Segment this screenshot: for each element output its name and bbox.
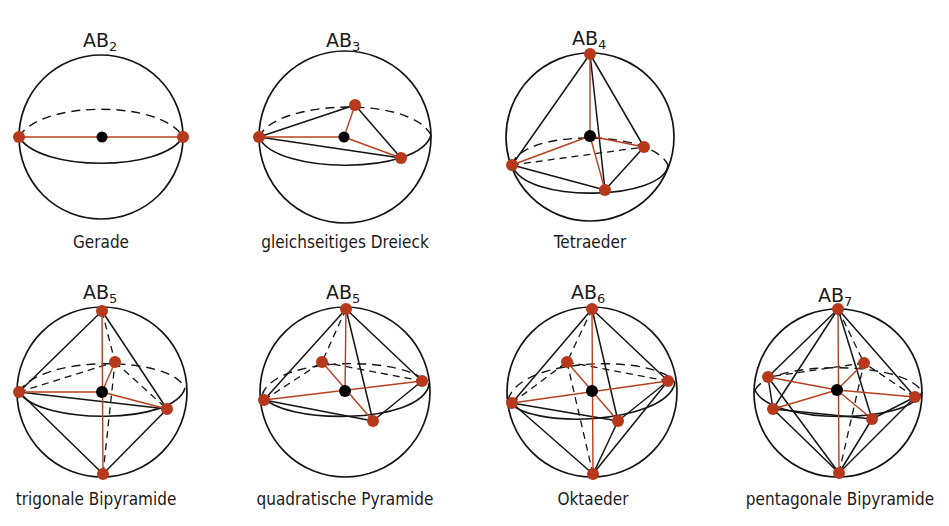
- geometry-caption: quadratische Pyramide: [257, 489, 434, 509]
- bond-line: [345, 309, 346, 391]
- bipyramid-edge: [19, 311, 102, 392]
- bipyramid-edge-hidden: [838, 309, 864, 363]
- panel-ab7-pentagonal-bipyramidal: AB7 pentagonale: [746, 284, 934, 509]
- bipyramid-edge: [773, 309, 838, 409]
- central-atom-a: [586, 385, 598, 397]
- bond-line: [768, 377, 837, 390]
- tetrahedron-edge-hidden: [512, 147, 644, 165]
- bipyramid-edge-hidden: [103, 362, 115, 474]
- ligand-atom-b: [96, 305, 108, 317]
- bipyramid-edge: [773, 409, 839, 473]
- pyramid-apex-edge: [346, 309, 422, 381]
- central-atom-a: [584, 130, 596, 142]
- ligand-atom-b: [584, 48, 596, 60]
- bipyramid-edge: [838, 309, 915, 397]
- ligand-atom-b: [506, 159, 518, 171]
- ligand-atom-b: [909, 391, 921, 403]
- ligand-atom-b: [258, 394, 270, 406]
- bipyramid-edge: [19, 392, 103, 474]
- triangle-edge: [259, 105, 355, 137]
- ligand-atom-b: [13, 386, 25, 398]
- tetrahedron-edge: [590, 54, 605, 190]
- ligand-atom-b: [13, 131, 25, 143]
- molecular-geometry-figure: AB2 Gerade AB3 gleichseitiges Dreieck AB…: [0, 0, 949, 526]
- tetrahedron-edge: [605, 147, 644, 190]
- ligand-atom-b: [316, 356, 328, 368]
- geometry-caption: Gerade: [73, 232, 129, 252]
- central-atom-a: [96, 386, 108, 398]
- octahedron-edge-hidden: [567, 362, 668, 381]
- ligand-atom-b: [833, 467, 845, 479]
- ligand-atom-b: [253, 131, 265, 143]
- ligand-atom-b: [161, 403, 173, 415]
- pyramid-apex-edge-hidden: [322, 309, 346, 362]
- ligand-atom-b: [762, 371, 774, 383]
- geometry-caption: Oktaeder: [557, 489, 629, 509]
- ligand-atom-b: [587, 468, 599, 480]
- geometry-caption: pentagonale Bipyramide: [746, 489, 934, 509]
- panel-ab4-tetrahedral: AB4 Tetraeder: [506, 27, 674, 252]
- panel-ab2-linear: AB2 Gerade: [13, 29, 189, 252]
- tetrahedron-edge: [512, 165, 605, 190]
- octahedron-edge: [512, 403, 593, 474]
- geometry-caption: Tetraeder: [553, 232, 627, 252]
- bond-line: [837, 390, 915, 397]
- bipyramid-edge-hidden: [102, 311, 115, 362]
- bipyramid-edge: [768, 377, 839, 473]
- pyramid-apex-edge: [346, 309, 373, 421]
- octahedron-edge: [512, 309, 592, 403]
- bond-line: [590, 136, 644, 147]
- octahedron-edge: [593, 381, 668, 474]
- bipyramid-edge: [103, 409, 167, 474]
- panel-ab3-trigonal-planar: AB3 gleichseitiges Dreieck: [253, 29, 431, 252]
- ligand-atom-b: [866, 413, 878, 425]
- ligand-atom-b: [561, 356, 573, 368]
- central-atom-a: [97, 132, 108, 143]
- central-atom-a: [831, 384, 843, 396]
- ligand-atom-b: [109, 356, 121, 368]
- ligand-atom-b: [177, 131, 189, 143]
- formula-label: AB5: [326, 281, 360, 306]
- equator-front: [512, 165, 668, 193]
- pentagon-edge: [872, 397, 915, 419]
- octahedron-edge-hidden: [567, 309, 592, 362]
- ligand-atom-b: [506, 397, 518, 409]
- ligand-atom-b: [767, 403, 779, 415]
- central-atom-a: [339, 132, 350, 143]
- ligand-atom-b: [349, 99, 361, 111]
- tetrahedron-edge: [512, 54, 590, 165]
- bond-line: [773, 390, 837, 409]
- ligand-atom-b: [97, 468, 109, 480]
- pentagon-edge: [773, 409, 872, 419]
- octahedron-edge-hidden: [567, 362, 593, 474]
- ligand-atom-b: [367, 415, 379, 427]
- panel-ab6-octahedral: AB6 Oktaeder: [506, 281, 677, 509]
- octahedron-edge: [592, 309, 668, 381]
- geometry-caption: trigonale Bipyramide: [16, 489, 177, 509]
- formula-label: AB5: [83, 281, 117, 306]
- ligand-atom-b: [586, 303, 598, 315]
- geometry-caption: gleichseitiges Dreieck: [261, 232, 429, 252]
- bipyramid-edge: [768, 309, 838, 377]
- ligand-atom-b: [858, 357, 870, 369]
- pentagon-edge-hidden: [768, 363, 864, 377]
- ligand-atom-b: [599, 184, 611, 196]
- panel-ab5-square-pyramidal: AB5 quadratische Pyramide: [257, 281, 434, 509]
- ligand-atom-b: [340, 303, 352, 315]
- formula-label: AB6: [571, 281, 605, 306]
- ligand-atom-b: [612, 415, 624, 427]
- central-atom-a: [339, 385, 351, 397]
- panel-ab5-trigonal-bipyramidal: AB5 trigonale Bipyramide: [13, 281, 187, 509]
- ligand-atom-b: [638, 141, 650, 153]
- ligand-atom-b: [395, 152, 407, 164]
- formula-label: AB2: [83, 29, 117, 54]
- ligand-atom-b: [662, 375, 674, 387]
- pyramid-apex-edge: [264, 309, 346, 400]
- ligand-atom-b: [416, 375, 428, 387]
- bipyramid-edge: [839, 397, 915, 473]
- ligand-atom-b: [832, 303, 844, 315]
- octahedron-edge: [592, 309, 618, 421]
